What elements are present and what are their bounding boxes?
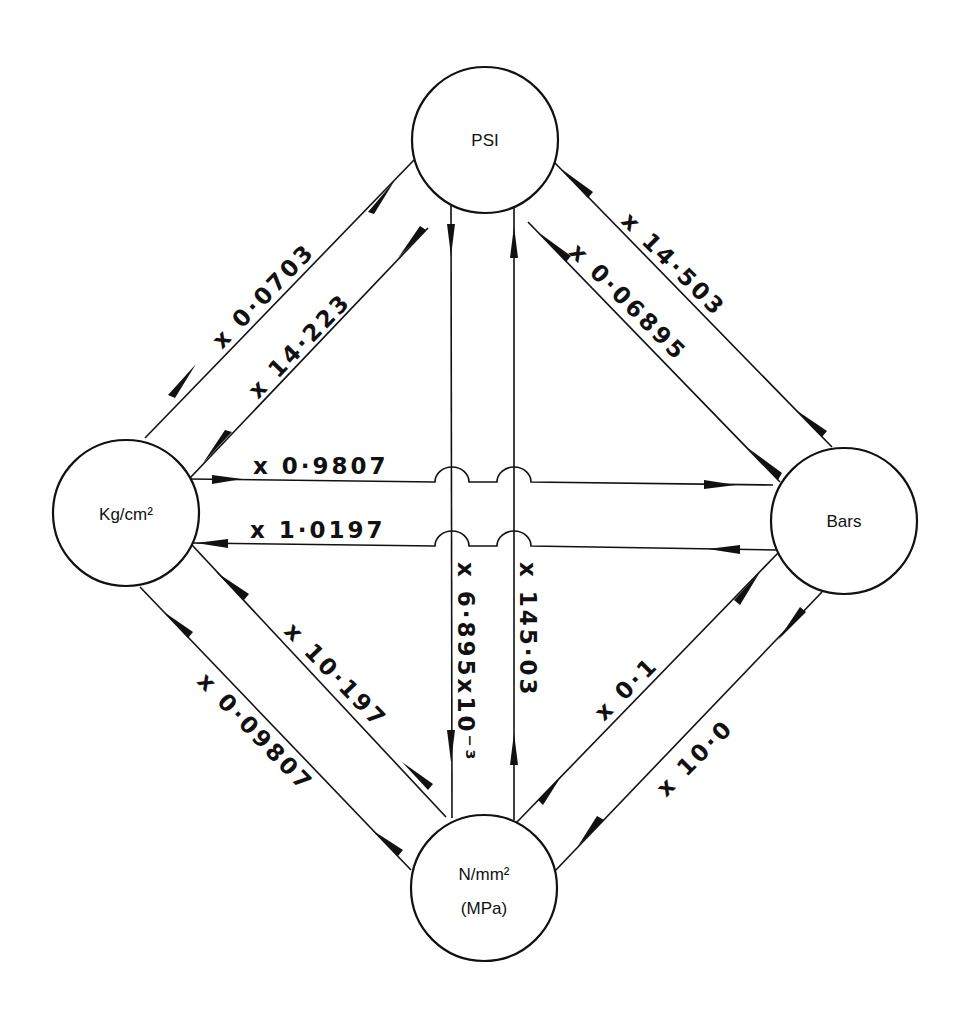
node-kgcm2: Kg/cm² bbox=[53, 440, 199, 586]
factor-kgcm2-to-mpa: x 0·09807 bbox=[192, 667, 318, 796]
factor-bars-to-kgcm2: x 1·0197 bbox=[250, 517, 386, 543]
factor-kgcm2-to-bars: x 0·9807 bbox=[253, 453, 389, 479]
edge-mpa-to-bars bbox=[554, 592, 822, 872]
arrow-icon bbox=[796, 410, 827, 437]
arrow-icon bbox=[510, 733, 518, 765]
factor-bars-to-mpa: x 0·1 bbox=[589, 652, 663, 726]
arrow-icon bbox=[216, 572, 249, 600]
arrow-icon bbox=[538, 775, 562, 805]
arrow-icon bbox=[734, 572, 760, 605]
arrow-icon bbox=[560, 168, 593, 198]
edge-mpa-to-psi bbox=[510, 208, 518, 820]
arrow-icon bbox=[398, 226, 426, 258]
node-bars: Bars bbox=[771, 448, 917, 594]
arrow-icon bbox=[203, 430, 232, 463]
factor-mpa-to-psi: x 145·03 bbox=[515, 562, 541, 698]
arrow-icon bbox=[578, 816, 604, 846]
arrow-icon bbox=[510, 226, 518, 258]
node-psi-label: PSI bbox=[471, 131, 498, 150]
arrow-icon bbox=[704, 480, 736, 489]
arrow-icon bbox=[368, 180, 395, 214]
edge-bars-to-psi bbox=[554, 162, 832, 447]
factor-psi-to-mpa: x 6·895x10⁻³ bbox=[453, 562, 479, 763]
arrow-icon bbox=[708, 545, 740, 554]
arrow-icon bbox=[196, 539, 228, 548]
factor-mpa-to-kgcm2: x 10·197 bbox=[279, 617, 392, 733]
node-mpa-label-line2: (MPa) bbox=[461, 899, 507, 918]
node-psi: PSI bbox=[412, 67, 558, 213]
edge-psi-to-kgcm2 bbox=[145, 160, 414, 438]
edge-bars-to-mpa bbox=[517, 553, 778, 822]
node-bars-label: Bars bbox=[827, 512, 862, 531]
node-kgcm2-label: Kg/cm² bbox=[99, 505, 153, 524]
arrow-icon bbox=[372, 830, 403, 856]
arrow-icon bbox=[164, 612, 193, 638]
node-mpa-label-line1: N/mm² bbox=[459, 865, 510, 884]
arrow-icon bbox=[212, 475, 242, 484]
node-mpa: N/mm² (MPa) bbox=[411, 815, 557, 961]
arrow-icon bbox=[748, 448, 782, 480]
arrow-icon bbox=[447, 224, 455, 256]
arrow-icon bbox=[168, 364, 196, 398]
conversion-diagram: x 0·0703 x 14·223 x 14·503 x 0·06895 x 0… bbox=[0, 0, 964, 1026]
arrow-icon bbox=[778, 607, 806, 640]
